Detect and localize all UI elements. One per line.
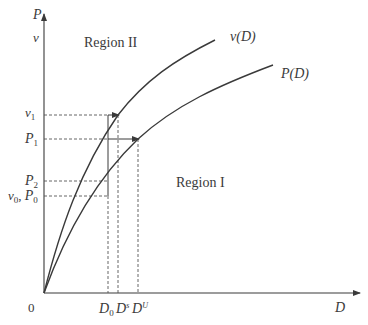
v1-sub: 1 — [31, 112, 36, 122]
p-curve-label: P(D) — [281, 67, 309, 81]
p-curve — [44, 65, 273, 293]
p2-base: P — [25, 173, 34, 188]
x-axis-label-d: D — [335, 301, 345, 315]
v-curve-label: v(D) — [230, 30, 256, 44]
v0p0-tick-label: v0, P0 — [8, 189, 38, 205]
d0-sub: 0 — [109, 308, 114, 318]
d0-tick-label: D0 — [99, 302, 114, 318]
du-sup: U — [142, 301, 148, 310]
y-axis-label-p: P — [33, 8, 42, 22]
p0-sub: 0 — [33, 195, 38, 205]
du-base: D — [132, 301, 142, 316]
diagram-canvas — [0, 0, 368, 325]
du-tick-label: DU — [132, 302, 148, 316]
v-curve — [44, 40, 215, 293]
origin-label: 0 — [28, 301, 35, 314]
d0-base: D — [99, 301, 109, 316]
v1-tick-label: v1 — [25, 106, 35, 122]
region-2-label: Region II — [84, 36, 137, 50]
p1-sub: 1 — [34, 138, 39, 148]
p1-base: P — [25, 131, 34, 146]
y-axis-label-v: v — [33, 31, 39, 44]
ds-tick-label: Ds — [116, 302, 129, 316]
ds-base: D — [116, 301, 126, 316]
region-1-label: Region I — [176, 176, 225, 190]
p1-tick-label: P1 — [25, 132, 38, 148]
ds-sup: s — [126, 301, 129, 310]
